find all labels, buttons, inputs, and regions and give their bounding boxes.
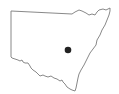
location-marker <box>65 47 72 54</box>
state-outline <box>11 8 110 91</box>
region-locator-map <box>0 0 119 94</box>
